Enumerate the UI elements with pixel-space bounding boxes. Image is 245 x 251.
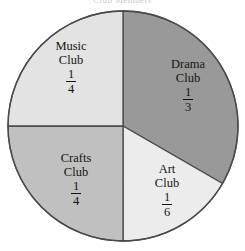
crafts-club-line1: Crafts — [40, 152, 112, 166]
slice-label-art-club: Art Club 1 6 — [137, 163, 197, 219]
art-club-fraction: 1 6 — [162, 191, 172, 219]
art-club-denominator: 6 — [162, 206, 172, 219]
drama-club-numerator: 1 — [183, 86, 193, 99]
art-club-numerator: 1 — [162, 191, 172, 204]
music-club-fraction: 1 4 — [66, 68, 76, 96]
slice-label-music-club: Music Club 1 4 — [35, 40, 107, 96]
crafts-club-line2: Club — [40, 166, 112, 180]
art-club-line2: Club — [137, 177, 197, 191]
pie-chart: Club Members Music Club 1 4 Drama Club 1… — [0, 0, 245, 251]
music-club-line1: Music — [35, 40, 107, 54]
pie-chart-svg — [0, 0, 245, 251]
music-club-line2: Club — [35, 54, 107, 68]
slice-label-crafts-club: Crafts Club 1 4 — [40, 152, 112, 208]
art-club-line1: Art — [137, 163, 197, 177]
music-club-numerator: 1 — [66, 68, 76, 81]
music-club-denominator: 4 — [66, 83, 76, 96]
drama-club-fraction: 1 3 — [183, 86, 193, 114]
crafts-club-numerator: 1 — [71, 180, 81, 193]
crafts-club-fraction: 1 4 — [71, 180, 81, 208]
drama-club-line1: Drama — [152, 58, 224, 72]
drama-club-denominator: 3 — [183, 101, 193, 114]
crafts-club-denominator: 4 — [71, 195, 81, 208]
slice-label-drama-club: Drama Club 1 3 — [152, 58, 224, 114]
drama-club-line2: Club — [152, 72, 224, 86]
